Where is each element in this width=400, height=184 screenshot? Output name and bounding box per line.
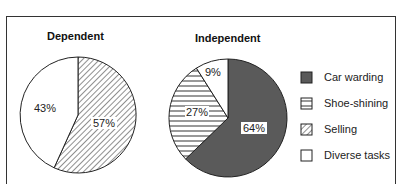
label-car-warding-independent: 64% bbox=[241, 122, 267, 134]
legend-selling: Selling bbox=[324, 123, 357, 135]
label-shoe-shining-independent: 27% bbox=[185, 106, 209, 118]
legend-diverse-tasks: Diverse tasks bbox=[324, 149, 390, 161]
label-diverse-independent: 9% bbox=[205, 66, 221, 78]
dependent-title: Dependent bbox=[47, 30, 104, 42]
legend-car-warding: Car warding bbox=[324, 71, 383, 83]
independent-title: Independent bbox=[195, 32, 260, 44]
legend-shoe-shining: Shoe-shining bbox=[324, 97, 388, 109]
label-selling-dependent: 57% bbox=[91, 117, 117, 129]
label-diverse-dependent: 43% bbox=[34, 102, 56, 114]
pie-dependent bbox=[20, 57, 136, 173]
